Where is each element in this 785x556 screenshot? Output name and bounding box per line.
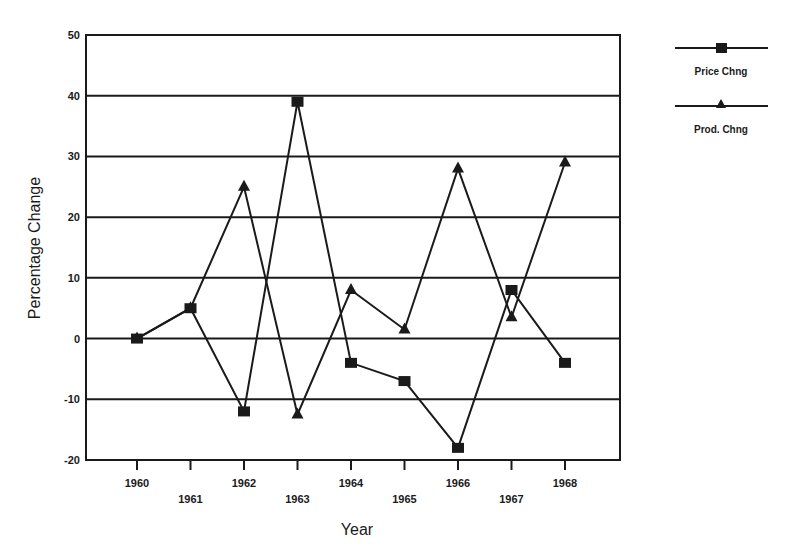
triangle-marker-icon bbox=[716, 99, 726, 108]
y-tick-label: -10 bbox=[64, 393, 80, 405]
y-axis-ticks: -20-1001020304050 bbox=[64, 29, 80, 466]
y-tick-label: 0 bbox=[74, 333, 80, 345]
x-tick-label: 1962 bbox=[232, 477, 256, 489]
triangle-marker-icon bbox=[452, 162, 464, 173]
y-tick-label: 40 bbox=[68, 90, 80, 102]
series-prod-chng bbox=[131, 156, 571, 419]
square-marker-icon bbox=[559, 358, 571, 368]
x-tick-label: 1960 bbox=[125, 477, 149, 489]
x-tick-label: 1966 bbox=[446, 477, 470, 489]
line-chart: -20-1001020304050 1960196119621963196419… bbox=[0, 0, 785, 556]
x-tick-label: 1961 bbox=[178, 493, 202, 505]
legend: Price Chng Prod. Chng bbox=[675, 43, 768, 135]
x-tick-label: 1964 bbox=[339, 477, 364, 489]
triangle-marker-icon bbox=[506, 310, 518, 321]
y-tick-label: 20 bbox=[68, 211, 80, 223]
square-marker-icon bbox=[238, 406, 250, 416]
y-tick-label: 10 bbox=[68, 272, 80, 284]
square-marker-icon bbox=[506, 285, 518, 295]
triangle-marker-icon bbox=[292, 407, 304, 418]
triangle-marker-icon bbox=[399, 322, 411, 333]
y-tick-label: 30 bbox=[68, 150, 80, 162]
x-tick-label: 1967 bbox=[499, 493, 523, 505]
triangle-marker-icon bbox=[238, 180, 250, 191]
gridlines bbox=[86, 35, 620, 460]
square-marker-icon bbox=[399, 376, 411, 386]
x-tick-label: 1968 bbox=[553, 477, 577, 489]
legend-item-price: Price Chng bbox=[675, 43, 768, 77]
x-tick-label: 1963 bbox=[285, 493, 309, 505]
y-tick-label: -20 bbox=[64, 454, 80, 466]
square-marker-icon bbox=[452, 443, 464, 453]
legend-item-prod: Prod. Chng bbox=[675, 99, 768, 135]
x-axis-ticks: 196019611962196319641965196619671968 bbox=[125, 460, 577, 505]
y-tick-label: 50 bbox=[68, 29, 80, 41]
plot-frame bbox=[86, 35, 620, 460]
x-axis-title: Year bbox=[341, 521, 374, 538]
x-tick-label: 1965 bbox=[392, 493, 416, 505]
legend-label-price: Price Chng bbox=[695, 66, 748, 77]
y-axis-title: Percentage Change bbox=[26, 177, 43, 319]
square-marker-icon bbox=[716, 43, 727, 53]
square-marker-icon bbox=[292, 97, 304, 107]
square-marker-icon bbox=[345, 358, 357, 368]
legend-label-prod: Prod. Chng bbox=[694, 124, 748, 135]
series-line bbox=[137, 102, 565, 448]
plot-border bbox=[86, 35, 620, 460]
triangle-marker-icon bbox=[345, 283, 357, 294]
